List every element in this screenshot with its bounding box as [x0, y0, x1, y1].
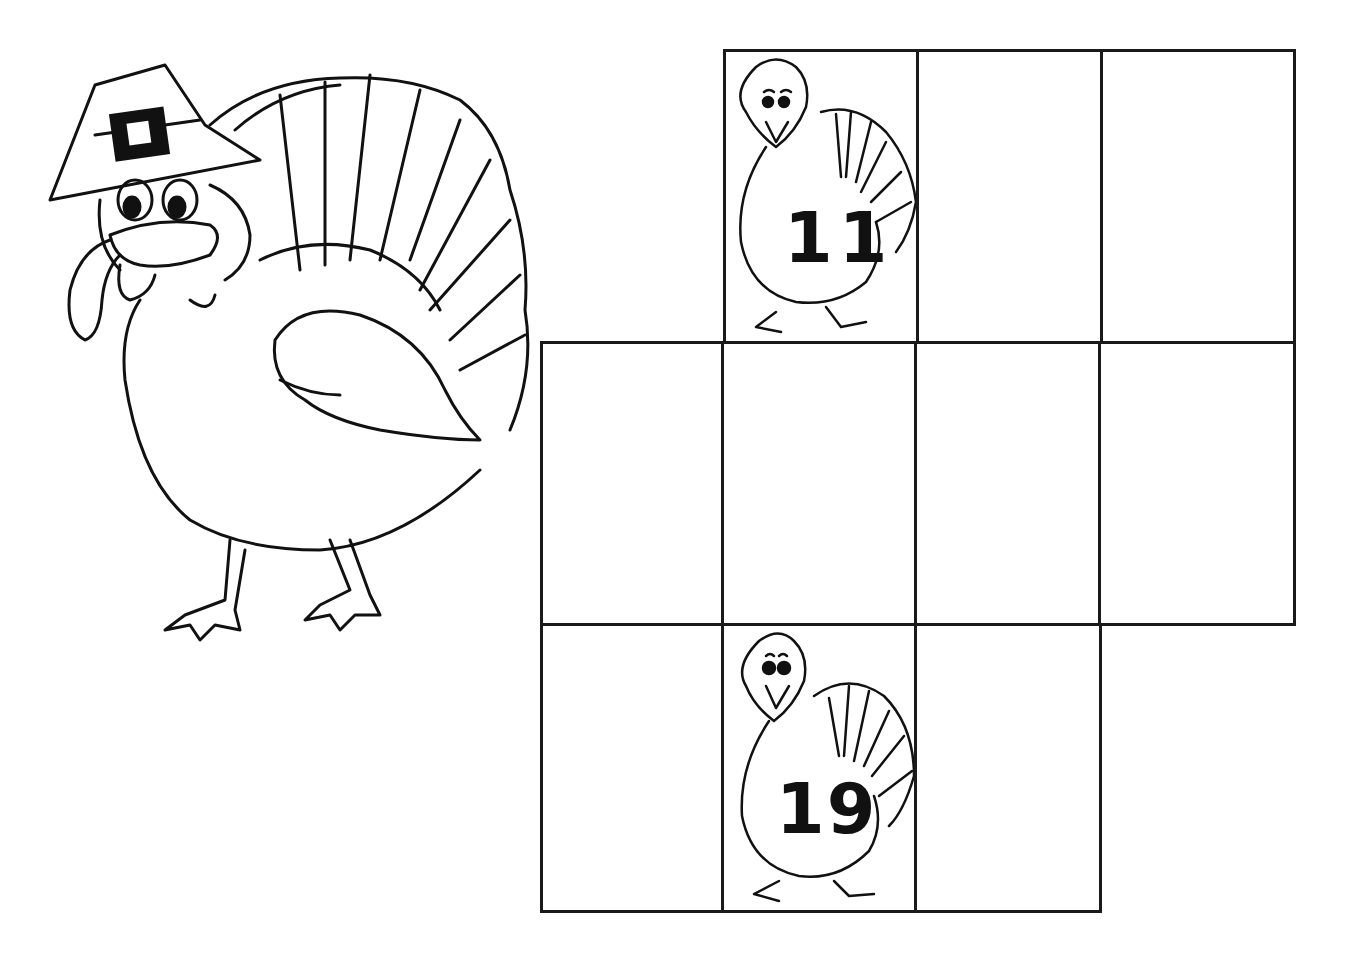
cell-number: 11 [784, 197, 893, 279]
grid-cell-r1-c3[interactable] [916, 49, 1103, 344]
number-grid: 11 19 [0, 0, 1346, 962]
grid-cell-r2-c2[interactable] [721, 341, 917, 626]
grid-cell-r3-c2[interactable]: 19 [721, 623, 917, 913]
grid-cell-r2-c3[interactable] [914, 341, 1102, 626]
grid-cell-r3-c3[interactable] [914, 623, 1102, 913]
grid-cell-r2-c1[interactable] [540, 341, 725, 626]
grid-cell-r3-c1[interactable] [540, 623, 725, 913]
grid-cell-r2-c4[interactable] [1098, 341, 1296, 626]
grid-cell-r1-c2[interactable]: 11 [723, 49, 919, 344]
cell-number: 19 [776, 768, 877, 850]
grid-cell-r1-c4[interactable] [1100, 49, 1296, 344]
